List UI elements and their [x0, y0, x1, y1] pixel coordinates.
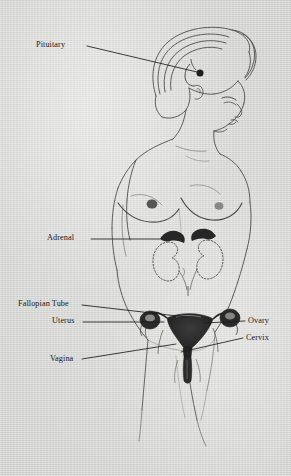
uterus-ovaries-icon [140, 309, 240, 383]
hair-group [153, 27, 256, 118]
diagram-page: Pituitary Adrenal Fallopian Tube Uterus … [0, 0, 291, 476]
kidneys-icon [153, 240, 223, 281]
leader-line-fallopian [82, 305, 186, 317]
ureter-lines [179, 269, 197, 296]
pituitary-gland-icon [185, 59, 204, 86]
label-ovary: Ovary [248, 317, 269, 325]
label-fallopian-tube: Fallopian Tube [18, 300, 69, 308]
label-adrenal: Adrenal [47, 234, 74, 242]
label-cervix: Cervix [246, 334, 269, 342]
label-vagina: Vagina [50, 355, 73, 363]
torso-breasts-group [118, 185, 242, 234]
anatomical-figure-illustration [0, 0, 291, 476]
head-face-group [189, 81, 245, 132]
label-pituitary: Pituitary [36, 41, 65, 49]
leader-line-vagina [82, 344, 176, 359]
adrenal-glands-icon [160, 229, 216, 243]
neck-shoulders-group [118, 110, 250, 202]
label-uterus: Uterus [52, 317, 74, 325]
